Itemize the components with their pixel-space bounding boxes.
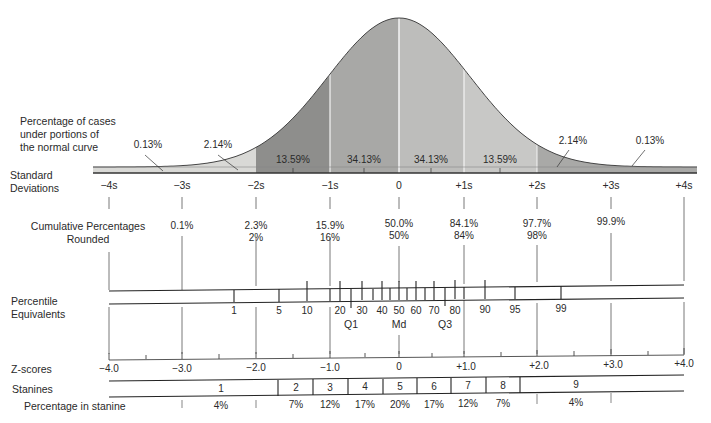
percentile-labels: 1 5 10 20 30 40 50 60 70 80 90 95 99 Q1 … — [231, 303, 567, 330]
svg-text:+2s: +2s — [528, 179, 545, 191]
svg-text:99: 99 — [555, 303, 567, 314]
svg-text:10: 10 — [301, 305, 313, 316]
svg-text:60: 60 — [410, 305, 422, 316]
svg-text:6: 6 — [431, 381, 437, 392]
svg-text:0: 0 — [396, 361, 402, 372]
svg-text:50: 50 — [393, 305, 405, 316]
sd-tick-labels: −4s −3s −2s −1s 0 +1s +2s +3s +4s — [100, 179, 692, 191]
svg-text:0: 0 — [396, 179, 402, 191]
svg-text:99.9%: 99.9% — [597, 216, 625, 227]
svg-text:84%: 84% — [454, 230, 474, 241]
svg-text:20%: 20% — [390, 399, 410, 410]
svg-text:−3s: −3s — [173, 179, 190, 191]
svg-text:40: 40 — [376, 305, 388, 316]
q1-label: Q1 — [344, 318, 358, 330]
svg-text:5: 5 — [276, 305, 282, 316]
svg-text:4%: 4% — [214, 400, 229, 411]
svg-text:7: 7 — [465, 380, 471, 391]
svg-text:50%: 50% — [389, 230, 409, 241]
svg-text:−1s: −1s — [321, 179, 338, 191]
svg-text:0.1%: 0.1% — [171, 220, 194, 231]
svg-text:2.14%: 2.14% — [559, 135, 587, 146]
svg-text:−2.0: −2.0 — [246, 362, 266, 373]
svg-text:0.13%: 0.13% — [134, 139, 162, 150]
svg-text:4: 4 — [362, 381, 368, 392]
svg-text:1: 1 — [218, 383, 224, 394]
svg-text:−1.0: −1.0 — [320, 362, 340, 373]
svg-text:7%: 7% — [289, 399, 304, 410]
svg-text:−2s: −2s — [247, 179, 264, 191]
svg-text:+3s: +3s — [602, 179, 619, 191]
svg-text:15.9%: 15.9% — [316, 220, 344, 231]
svg-text:9: 9 — [573, 379, 579, 390]
svg-text:17%: 17% — [424, 399, 444, 410]
svg-text:80: 80 — [449, 305, 461, 316]
curve-bands — [90, 0, 697, 175]
svg-text:84.1%: 84.1% — [450, 218, 478, 229]
svg-text:98%: 98% — [527, 230, 547, 241]
svg-text:2.14%: 2.14% — [204, 139, 232, 150]
svg-text:−4s: −4s — [100, 179, 117, 191]
svg-text:17%: 17% — [355, 399, 375, 410]
svg-text:+1s: +1s — [455, 179, 472, 191]
svg-text:+3.0: +3.0 — [603, 359, 623, 370]
svg-text:2.3%: 2.3% — [245, 220, 268, 231]
svg-text:50.0%: 50.0% — [385, 218, 413, 229]
svg-text:4%: 4% — [569, 397, 584, 408]
svg-text:30: 30 — [356, 305, 368, 316]
svg-text:2: 2 — [293, 382, 299, 393]
q3-label: Q3 — [438, 318, 452, 330]
svg-text:5: 5 — [397, 381, 403, 392]
svg-text:+4.0: +4.0 — [674, 358, 694, 369]
svg-text:+1.0: +1.0 — [456, 361, 476, 372]
svg-text:16%: 16% — [320, 232, 340, 243]
svg-text:8: 8 — [500, 380, 506, 391]
zscore-axis — [109, 348, 684, 360]
percentile-bar — [109, 280, 684, 308]
normal-curve-diagram: 0.13% 2.14% 13.59% 34.13% 34.13% 13.59% … — [0, 0, 711, 423]
svg-text:+4s: +4s — [675, 179, 692, 191]
svg-text:95: 95 — [509, 304, 521, 315]
svg-text:2%: 2% — [249, 232, 264, 243]
svg-text:−3.0: −3.0 — [172, 363, 192, 374]
svg-text:−4.0: −4.0 — [99, 363, 119, 374]
stanine-labels: 1 2 3 4 5 6 7 8 9 — [218, 379, 579, 394]
svg-text:20: 20 — [334, 305, 346, 316]
svg-text:34.13%: 34.13% — [347, 154, 381, 165]
cumulative-percentages: 0.1% 2.3% 2% 15.9% 16% 50.0% 50% 84.1% 8… — [171, 216, 626, 243]
svg-text:12%: 12% — [458, 398, 478, 409]
svg-text:97.7%: 97.7% — [523, 218, 551, 229]
svg-text:3: 3 — [327, 382, 333, 393]
median-label: Md — [392, 318, 407, 330]
svg-text:13.59%: 13.59% — [483, 154, 517, 165]
svg-text:12%: 12% — [320, 399, 340, 410]
svg-text:90: 90 — [479, 304, 491, 315]
svg-text:70: 70 — [428, 305, 440, 316]
svg-text:+2.0: +2.0 — [529, 360, 549, 371]
svg-text:34.13%: 34.13% — [414, 154, 448, 165]
svg-text:7%: 7% — [496, 398, 511, 409]
svg-text:1: 1 — [231, 305, 237, 316]
zscore-labels: −4.0 −3.0 −2.0 −1.0 0 +1.0 +2.0 +3.0 +4.… — [99, 358, 694, 374]
svg-text:0.13%: 0.13% — [636, 135, 664, 146]
svg-text:13.59%: 13.59% — [276, 154, 310, 165]
